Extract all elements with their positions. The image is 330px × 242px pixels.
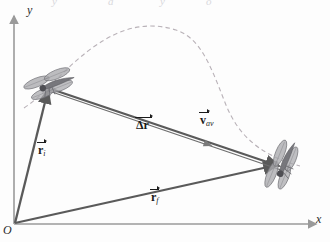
average-velocity-vector-label: vav — [200, 114, 214, 128]
final-position-vector-symbol: r — [151, 191, 156, 203]
vector-diagram-figure — [0, 0, 330, 242]
initial-position-vector-symbol: r — [38, 144, 43, 156]
final-position-vector — [15, 165, 277, 223]
final-position-vector-label: rf — [151, 191, 159, 205]
average-velocity-vector-subscript: av — [206, 119, 214, 128]
origin-label: O — [3, 224, 12, 236]
average-velocity-vector-symbol: v — [200, 114, 206, 126]
average-velocity-vector — [52, 92, 281, 170]
initial-position-vector-subscript: i — [43, 149, 45, 158]
displacement-vector — [48, 88, 279, 166]
displacement-vector-label: Δr — [136, 119, 149, 131]
displacement-vector-symbol: Δr — [136, 119, 149, 131]
initial-position-vector-label: ri — [38, 144, 46, 158]
y-axis-label: y — [27, 4, 32, 16]
final-position-vector-subscript: f — [156, 196, 158, 205]
x-axis-label: x — [316, 213, 321, 225]
